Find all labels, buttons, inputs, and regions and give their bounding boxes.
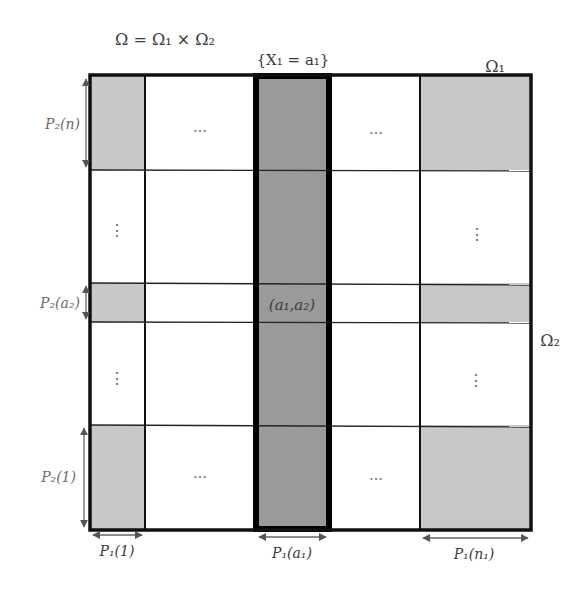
row-label-p2-a2: P₂(a₂): [39, 295, 80, 311]
ellipsis-bottom-2: ⋯: [369, 471, 383, 487]
ellipsis-top-2: ⋯: [369, 125, 383, 141]
ellipsis-top-1: ⋯: [193, 123, 207, 139]
cell-shaded-top-right: [420, 75, 531, 170]
row-label-p2-n: P₂(n): [44, 116, 80, 132]
cell-shaded-top-left: [90, 75, 145, 170]
vdots-right-1: ⋮: [469, 225, 485, 244]
product-space-diagram: ⋯ ⋯ ⋯ ⋯ ⋮ ⋮ ⋮ ⋮ (a₁,a₂) Ω = Ω₁ × Ω₂ {X₁ …: [0, 0, 585, 596]
row-label-p2-1: P₂(1): [40, 469, 76, 485]
omega1-label: Ω₁: [485, 57, 505, 76]
col-label-p1-n1: P₁(n₁): [453, 546, 495, 562]
row-arrows: [84, 79, 86, 527]
cell-shaded-bottom-left: [90, 425, 145, 530]
vdots-left-1: ⋮: [109, 221, 125, 240]
ellipsis-bottom-1: ⋯: [193, 469, 207, 485]
col-label-p1-1: P₁(1): [99, 543, 135, 559]
col-label-p1-a1: P₁(a₁): [271, 545, 312, 561]
diagram-title: Ω = Ω₁ × Ω₂: [115, 30, 215, 49]
col-arrows: [93, 535, 528, 538]
event-label: {X₁ = a₁}: [257, 51, 330, 69]
cell-shaded-bottom-right: [420, 425, 531, 530]
omega2-label: Ω₂: [540, 331, 560, 350]
cell-label-a1-a2: (a₁,a₂): [269, 296, 316, 314]
vdots-right-2: ⋮: [468, 371, 484, 390]
vdots-left-2: ⋮: [109, 369, 125, 388]
cell-shaded-mid-left: [90, 283, 145, 322]
cell-shaded-mid-right: [420, 283, 531, 322]
